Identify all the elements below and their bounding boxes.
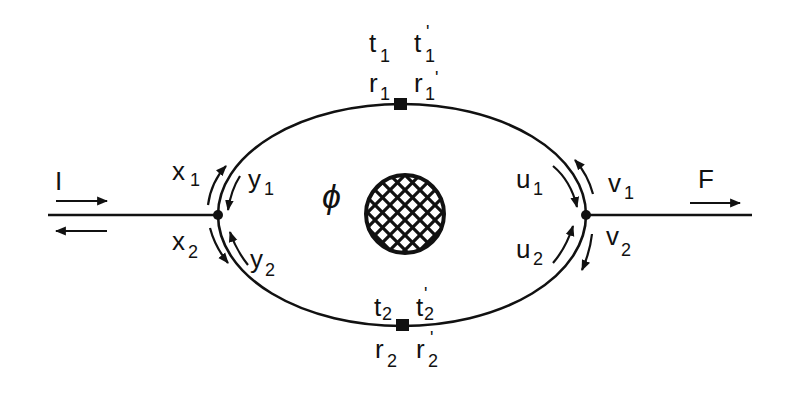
- label-t2-prime: t 2 ': [416, 284, 434, 324]
- u1-arrow: [553, 166, 577, 207]
- label-u2: u 2: [516, 234, 543, 269]
- label-v1: v 1: [608, 168, 634, 203]
- svg-text:2: 2: [382, 304, 392, 324]
- label-r2: r 2: [375, 334, 397, 371]
- u2-arrow: [553, 226, 573, 263]
- svg-text:t: t: [414, 28, 422, 58]
- svg-text:2: 2: [387, 351, 397, 371]
- label-x1: x 1: [172, 156, 200, 190]
- svg-text:t: t: [416, 292, 424, 322]
- svg-text:v: v: [608, 168, 621, 198]
- svg-text:1: 1: [425, 84, 435, 104]
- output-label: F: [698, 164, 714, 194]
- svg-text:t: t: [374, 292, 382, 322]
- label-t1-prime: t 1 ': [414, 22, 435, 66]
- svg-text:': ': [426, 22, 429, 42]
- svg-text:x: x: [172, 226, 185, 256]
- top-scatterer: [394, 98, 407, 110]
- svg-text:1: 1: [264, 179, 274, 199]
- v1-arrow: [575, 160, 593, 194]
- flux-label: ϕ: [322, 177, 341, 215]
- svg-text:t: t: [369, 28, 377, 58]
- svg-text:y: y: [250, 244, 263, 274]
- svg-text:1: 1: [624, 183, 634, 203]
- svg-text:2: 2: [424, 304, 434, 324]
- svg-text:u: u: [516, 164, 530, 194]
- svg-text:y: y: [248, 164, 261, 194]
- svg-text:2: 2: [188, 242, 198, 262]
- svg-text:1: 1: [533, 179, 543, 199]
- svg-text:x: x: [172, 156, 185, 186]
- label-x2: x 2: [172, 226, 198, 262]
- label-v2: v 2: [606, 221, 631, 260]
- label-y1: y 1: [248, 164, 274, 199]
- label-r2-prime: r 2 ': [416, 328, 438, 371]
- svg-text:1: 1: [380, 84, 390, 104]
- label-u1: u 1: [516, 164, 543, 199]
- svg-text:': ': [430, 328, 433, 348]
- svg-text:1: 1: [380, 46, 390, 66]
- input-label: I: [55, 166, 62, 196]
- right-junction-node: [581, 210, 591, 220]
- svg-text:u: u: [516, 234, 530, 264]
- v2-arrow: [582, 234, 592, 270]
- flux-disc: [270, 160, 540, 290]
- svg-text:r: r: [375, 334, 384, 364]
- svg-text:2: 2: [621, 240, 631, 260]
- svg-text:': ': [435, 68, 438, 88]
- svg-text:': ': [424, 284, 427, 304]
- interferometer-diagram: ϕ I F x 1 y 1 x 2 y 2 u 1 v 1 u 2: [0, 0, 790, 393]
- svg-text:r: r: [369, 68, 378, 98]
- svg-text:2: 2: [533, 249, 543, 269]
- label-t1: t 1: [369, 28, 390, 66]
- y1-arrow: [228, 176, 240, 210]
- label-r1: r 1: [369, 68, 390, 104]
- svg-text:2: 2: [428, 351, 438, 371]
- label-t2: t 2: [374, 292, 392, 324]
- label-r1-prime: r 1 ': [414, 68, 438, 104]
- svg-text:r: r: [414, 68, 423, 98]
- bottom-scatterer: [396, 319, 409, 331]
- left-junction-node: [213, 210, 223, 220]
- svg-text:2: 2: [265, 260, 275, 280]
- label-y2: y 2: [250, 244, 275, 280]
- svg-text:r: r: [416, 334, 425, 364]
- svg-text:1: 1: [425, 46, 435, 66]
- svg-text:1: 1: [190, 170, 200, 190]
- svg-text:v: v: [606, 221, 619, 251]
